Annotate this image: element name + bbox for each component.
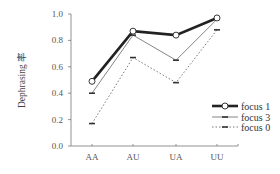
x-tick-label: UU [211, 152, 224, 162]
y-axis: 0.00.20.40.60.81.0 [52, 9, 71, 151]
y-tick-label: 0.2 [52, 115, 63, 125]
y-tick-label: 0.8 [52, 35, 64, 45]
x-tick-label: UA [170, 152, 183, 162]
x-tick-label: AU [127, 152, 140, 162]
y-tick-label: 0.4 [52, 88, 64, 98]
y-tick-label: 0.0 [52, 141, 64, 151]
legend-label: focus 1 [241, 101, 270, 112]
x-axis: AAAUUAUU [71, 144, 238, 162]
series-focus-0 [89, 30, 220, 124]
y-tick-label: 0.6 [52, 62, 64, 72]
y-tick-label: 1.0 [52, 9, 64, 19]
line-chart: 0.00.20.40.60.81.0 AAAUUAUU Dephrasing 率… [0, 0, 280, 174]
circle-marker [173, 32, 179, 38]
x-tick-label: AA [86, 152, 99, 162]
circle-marker [130, 28, 136, 34]
y-axis-label: Dephrasing 率 [16, 52, 27, 108]
series-focus-3 [89, 19, 220, 93]
legend-item-focus-0: focus 0 [212, 122, 270, 133]
series-lines [89, 15, 220, 124]
series-focus-1 [89, 15, 220, 84]
legend-item-focus-1: focus 1 [212, 101, 270, 112]
legend-label: focus 0 [241, 122, 270, 133]
legend: focus 1focus 3focus 0 [212, 101, 270, 133]
circle-marker [89, 78, 95, 84]
circle-marker [222, 103, 228, 109]
circle-marker [214, 15, 220, 21]
